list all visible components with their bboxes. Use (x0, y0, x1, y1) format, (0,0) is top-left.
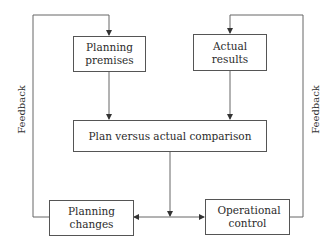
feedback-label-left: Feedback (16, 85, 27, 135)
node-label: Actual results (194, 40, 266, 66)
feedback-label-right: Feedback (310, 85, 321, 135)
node-label: Planning premises (85, 41, 135, 67)
node-label: Plan versus actual comparison (89, 130, 252, 143)
node-actual-results: Actual results (193, 34, 267, 71)
node-planning-changes: Planning changes (49, 200, 134, 236)
node-plan-versus-actual-comparison: Plan versus actual comparison (73, 120, 267, 152)
node-label: Planning changes (67, 205, 117, 231)
node-label: Operational control (218, 204, 278, 230)
node-planning-premises: Planning premises (73, 36, 146, 72)
node-operational-control: Operational control (205, 199, 290, 235)
